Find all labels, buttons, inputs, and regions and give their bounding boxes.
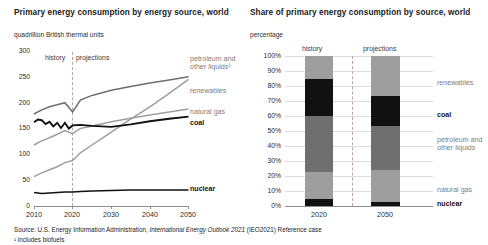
right-ytick-0: 0% <box>248 202 281 210</box>
right-history-projection-divider <box>352 56 353 206</box>
right-ytick-90: 90% <box>248 67 281 75</box>
source-publication: International Energy Outlook 2021 <box>149 226 245 233</box>
series-renewables-line <box>34 79 189 176</box>
left-xtick-2020: 2020 <box>57 211 87 219</box>
right-label-natural-gas: natural gas <box>437 186 488 194</box>
left-chart-title: Primary energy consumption by energy sou… <box>14 8 229 18</box>
bar-2020-segment-natural-gas[interactable] <box>305 172 333 200</box>
bar-2020-segment-nuclear[interactable] <box>305 199 333 206</box>
right-ytick-30: 30% <box>248 157 281 165</box>
left-ytick-50: 50 <box>4 176 30 184</box>
bar-2050-segment-renewables[interactable] <box>371 56 400 96</box>
bar-2020-segment-petroleum[interactable] <box>305 116 333 172</box>
chart-page: Primary energy consumption by energy sou… <box>0 0 488 245</box>
left-xtick-2010: 2010 <box>19 211 49 219</box>
footnote-line: ¹ includes biofuels <box>14 236 64 243</box>
right-chart-title: Share of primary energy consumption by s… <box>250 8 475 18</box>
left-ytick-100: 100 <box>4 150 30 158</box>
left-xtick-2030: 2030 <box>96 211 126 219</box>
left-label-natural-gas: natural gas <box>190 108 246 116</box>
left-ytick-150: 150 <box>4 124 30 132</box>
left-ytick-300: 300 <box>4 47 30 55</box>
left-ytick-0: 0 <box>4 202 30 210</box>
right-label-petroleum: petroleum and other liquids <box>437 136 487 153</box>
right-xtick-2050: 2050 <box>370 211 400 219</box>
source-suffix: (IEO2021) Reference case <box>245 226 322 233</box>
left-chart-lines <box>34 45 209 210</box>
left-chart-subtitle: quadrillion British thermal units <box>14 31 104 39</box>
bar-2050-segment-petroleum[interactable] <box>371 126 400 170</box>
bar-2050-segment-coal[interactable] <box>371 96 400 126</box>
right-ytick-100: 100% <box>248 52 281 60</box>
right-ytick-80: 80% <box>248 82 281 90</box>
source-prefix: Source: U.S. Energy Information Administ… <box>14 226 149 233</box>
series-nuclear-line <box>34 190 189 194</box>
right-ytick-60: 60% <box>248 112 281 120</box>
right-ytick-20: 20% <box>248 172 281 180</box>
left-label-petroleum: petroleum and other liquids¹ <box>190 55 246 72</box>
bar-2020-segment-renewables[interactable] <box>305 56 333 79</box>
right-label-renewables: renewables <box>437 79 488 87</box>
left-xtick-2040: 2040 <box>135 211 165 219</box>
right-x-axis <box>285 206 433 207</box>
source-line: Source: U.S. Energy Information Administ… <box>14 226 322 233</box>
left-ytick-250: 250 <box>4 73 30 81</box>
left-xtick-2050: 2050 <box>173 211 203 219</box>
left-ytick-200: 200 <box>4 99 30 107</box>
right-history-label: history <box>302 45 322 53</box>
right-ytick-70: 70% <box>248 97 281 105</box>
right-ytick-10: 10% <box>248 187 281 195</box>
left-label-renewables: renewables <box>190 87 246 95</box>
bar-2050-segment-nuclear[interactable] <box>371 202 400 207</box>
right-label-nuclear: nuclear <box>437 200 488 208</box>
right-projections-label: projections <box>363 45 396 53</box>
right-chart-subtitle: percentage <box>250 31 283 39</box>
right-xtick-2020: 2020 <box>304 211 334 219</box>
left-label-coal: coal <box>190 119 246 127</box>
right-ytick-50: 50% <box>248 127 281 135</box>
right-ytick-40: 40% <box>248 142 281 150</box>
bar-2020-segment-coal[interactable] <box>305 79 333 117</box>
left-label-nuclear: nuclear <box>190 185 246 193</box>
bar-2050-segment-natural-gas[interactable] <box>371 170 400 202</box>
right-label-coal: coal <box>437 111 488 119</box>
